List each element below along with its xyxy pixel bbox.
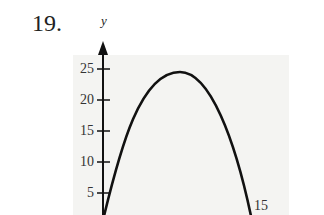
x-tick-15: 15 [254,198,268,214]
y-tick-15: 15 [70,123,94,139]
y-tick-10: 10 [70,154,94,170]
y-tick-5: 5 [70,185,94,201]
y-tick-20: 20 [70,92,94,108]
y-tick-25: 25 [70,61,94,77]
parabola-curve [104,72,251,215]
chart-svg [0,0,324,215]
y-axis-arrow-icon [98,41,108,55]
